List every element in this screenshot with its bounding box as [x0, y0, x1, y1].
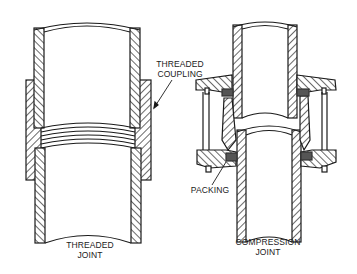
upper-pipe-right-wall	[288, 25, 297, 118]
threaded-joint-caption: THREADED JOINT	[55, 240, 125, 260]
packing-upper-right	[297, 89, 309, 96]
threaded-joint-figure	[26, 23, 172, 243]
packing-lower-right	[301, 152, 312, 160]
pipe-joints-diagram	[0, 0, 357, 274]
upper-pipe-left-wall	[233, 25, 242, 118]
threaded-coupling-callout: THREADED COUPLING	[150, 59, 210, 79]
lower-pipe-left-wall	[35, 148, 45, 243]
upper-pipe-left-wall	[34, 28, 44, 128]
compression-joint-caption: COMPRESSION JOINT	[228, 237, 308, 257]
lower-pipe-right-wall	[131, 148, 141, 243]
lower-pipe-right-wall	[292, 130, 301, 242]
compression-joint-figure	[196, 22, 336, 242]
lower-pipe-left-wall	[237, 130, 246, 242]
sleeve-right	[300, 96, 310, 150]
upper-pipe-right-wall	[130, 28, 140, 128]
packing-callout: PACKING	[185, 185, 235, 195]
packing-upper-left	[222, 89, 233, 96]
packing-lower-left	[226, 153, 237, 161]
